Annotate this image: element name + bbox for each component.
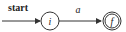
state-i: i	[41, 12, 59, 30]
start-label: start	[8, 2, 29, 13]
state-f-label: f	[111, 16, 115, 27]
automaton-diagram: start i a f	[0, 0, 126, 32]
transition-label: a	[76, 4, 81, 15]
state-f: f	[103, 12, 121, 30]
state-i-label: i	[49, 16, 52, 27]
